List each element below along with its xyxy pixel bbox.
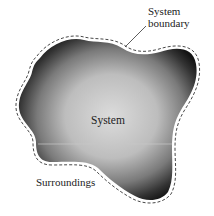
diagram-graphic: [0, 0, 214, 216]
boundary-label-line2: boundary: [148, 17, 190, 29]
boundary-label-line1: System: [148, 5, 190, 17]
system-boundary-label: System boundary: [148, 5, 190, 29]
surroundings-label: Surroundings: [36, 176, 95, 188]
boundary-leader-line: [125, 26, 146, 47]
system-label: System: [91, 114, 125, 126]
system-diagram: System boundary System Surroundings: [0, 0, 214, 216]
